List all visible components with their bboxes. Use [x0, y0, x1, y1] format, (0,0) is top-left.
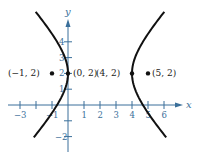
x-tick-label: 1 [82, 110, 87, 120]
axes: xy−3−11234564321−2 [8, 6, 192, 152]
y-tick-label: −2 [55, 132, 68, 142]
labeled-points: (−1, 2)(0, 2)(4, 2)(5, 2) [8, 68, 176, 78]
point-label: (0, 2) [73, 68, 97, 78]
x-tick-label: 6 [162, 110, 167, 120]
x-tick-label: −3 [14, 110, 27, 120]
point-label: (4, 2) [96, 68, 120, 78]
point-marker [146, 71, 150, 75]
x-tick-label: 3 [114, 110, 119, 120]
y-axis-label: y [64, 6, 71, 17]
point-marker [50, 71, 54, 75]
x-tick-label: 2 [98, 110, 103, 120]
point-marker [66, 71, 70, 75]
y-tick-label: 2 [59, 68, 64, 78]
point-label: (−1, 2) [8, 68, 40, 78]
x-axis-arrow-icon [175, 103, 183, 108]
point-label: (5, 2) [152, 68, 176, 78]
y-axis-arrow-icon [66, 19, 71, 27]
x-axis-label: x [186, 99, 192, 110]
x-tick-label: 4 [130, 110, 135, 120]
hyperbola-plot: xy−3−11234564321−2 (−1, 2)(0, 2)(4, 2)(5… [0, 0, 198, 159]
point-marker [130, 71, 134, 75]
